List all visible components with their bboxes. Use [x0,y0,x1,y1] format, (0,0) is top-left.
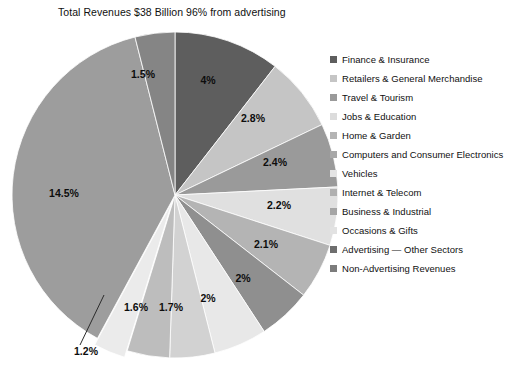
pie-slice-label: 2.4% [263,156,288,168]
legend-item[interactable]: Computers and Consumer Electronics [330,149,510,161]
legend-item-label: Non-Advertising Revenues [342,263,455,275]
legend-item[interactable]: Internet & Telecom [330,187,510,199]
pie-slice-label: 2.1% [254,238,279,250]
pie-slice-label: 14.5% [49,187,79,199]
legend-swatch-icon [330,56,337,63]
legend-item[interactable]: Retailers & General Merchandise [330,73,510,85]
legend-swatch-icon [330,227,337,234]
legend-swatch-icon [330,208,337,215]
legend-item[interactable]: Home & Garden [330,130,510,142]
legend-swatch-icon [330,265,337,272]
legend-item-label: Travel & Tourism [342,92,413,104]
legend-swatch-icon [330,113,337,120]
legend-item[interactable]: Advertising — Other Sectors [330,244,510,256]
legend-item[interactable]: Business & Industrial [330,206,510,218]
legend-item[interactable]: Finance & Insurance [330,54,510,66]
legend-item[interactable]: Occasions & Gifts [330,225,510,237]
pie-slice-label: 4% [200,74,216,86]
chart-legend: Finance & InsuranceRetailers & General M… [330,54,510,282]
pie-slice-label: 1.6% [124,301,149,313]
legend-item-label: Occasions & Gifts [342,225,418,237]
legend-swatch-icon [330,75,337,82]
legend-item-label: Advertising — Other Sectors [342,244,463,256]
pie-slice-label: 2% [200,292,216,304]
legend-swatch-icon [330,132,337,139]
pie-slice-label: 2% [235,272,251,284]
pie-slice-label: 1.5% [131,68,156,80]
legend-item-label: Home & Garden [342,130,411,142]
legend-item[interactable]: Jobs & Education [330,111,510,123]
legend-item[interactable]: Non-Advertising Revenues [330,263,510,275]
legend-item-label: Vehicles [342,168,378,180]
legend-item-label: Internet & Telecom [342,187,421,199]
legend-swatch-icon [330,170,337,177]
legend-item-label: Jobs & Education [342,111,416,123]
legend-item-label: Computers and Consumer Electronics [342,149,503,161]
legend-swatch-icon [330,151,337,158]
legend-swatch-icon [330,94,337,101]
legend-swatch-icon [330,246,337,253]
legend-item[interactable]: Travel & Tourism [330,92,510,104]
pie-slice-label: 2.8% [241,112,266,124]
legend-item-label: Business & Industrial [342,206,431,218]
legend-swatch-icon [330,189,337,196]
pie-slice-label: 1.2% [74,345,99,357]
legend-item-label: Finance & Insurance [342,54,430,66]
legend-item-label: Retailers & General Merchandise [342,73,483,85]
pie-slice-label: 1.7% [159,301,184,313]
pie-chart-figure: Total Revenues $38 Billion 96% from adve… [0,0,512,370]
legend-item[interactable]: Vehicles [330,168,510,180]
pie-slice-label: 2.2% [267,199,292,211]
